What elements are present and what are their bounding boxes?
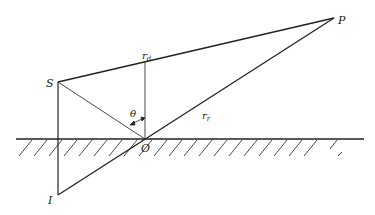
reflected-ray bbox=[58, 18, 334, 195]
label-source: S bbox=[46, 77, 54, 90]
label-image-source: I bbox=[47, 194, 53, 207]
label-receiver: P bbox=[337, 14, 346, 27]
label-reflected-ray: rr bbox=[202, 110, 211, 123]
direct-ray bbox=[58, 18, 334, 82]
ground-hatching bbox=[19, 140, 342, 156]
reflection-diagram: S P O I θ rd rr bbox=[0, 0, 375, 215]
label-reflection-point: O bbox=[141, 142, 150, 155]
label-angle: θ bbox=[130, 108, 136, 119]
label-direct-ray: rd bbox=[142, 50, 152, 63]
